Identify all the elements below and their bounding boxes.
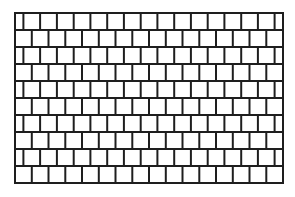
brick-row — [15, 115, 283, 132]
brick-row — [15, 149, 283, 166]
brick-row — [15, 47, 283, 64]
brick-row — [15, 98, 283, 115]
brick-row — [15, 166, 283, 183]
brick-grid-diagram — [0, 0, 295, 197]
brick-rows — [15, 13, 283, 183]
brick-row — [15, 64, 283, 81]
brick-row — [15, 81, 283, 98]
brick-row — [15, 13, 283, 30]
brick-row — [15, 30, 283, 47]
brick-row — [15, 132, 283, 149]
